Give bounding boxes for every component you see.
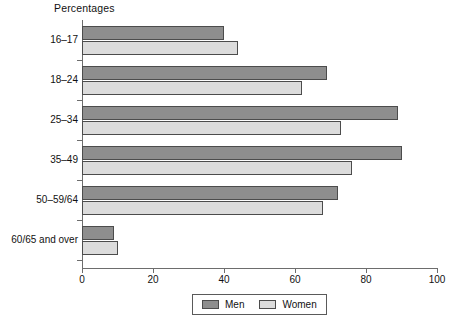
legend-label-women: Women xyxy=(282,299,316,310)
category-label: 25–34 xyxy=(2,114,78,125)
bar-men xyxy=(82,66,327,80)
category-label: 18–24 xyxy=(2,74,78,85)
bar-women xyxy=(82,241,118,255)
bar-group xyxy=(82,26,437,56)
category-label: 35–49 xyxy=(2,154,78,165)
bar-group xyxy=(82,106,437,136)
x-axis-tick xyxy=(153,268,154,273)
y-axis-tick xyxy=(77,260,82,261)
chart-title: Percentages xyxy=(54,2,115,14)
x-axis-tick xyxy=(224,268,225,273)
x-axis-label: 40 xyxy=(218,274,229,285)
bar-women xyxy=(82,201,323,215)
y-axis-tick xyxy=(77,140,82,141)
x-axis-tick xyxy=(82,268,83,273)
legend-swatch-men xyxy=(202,300,219,309)
bar-men xyxy=(82,106,398,120)
x-axis-tick xyxy=(295,268,296,273)
bar-men xyxy=(82,186,338,200)
x-axis-tick xyxy=(437,268,438,273)
category-label: 50–59/64 xyxy=(2,194,78,205)
x-axis-tick xyxy=(366,268,367,273)
bar-women xyxy=(82,121,341,135)
x-axis-label: 80 xyxy=(360,274,371,285)
y-axis-tick xyxy=(77,60,82,61)
legend-label-men: Men xyxy=(225,299,244,310)
x-axis-label: 60 xyxy=(289,274,300,285)
bar-men xyxy=(82,146,402,160)
y-axis-tick xyxy=(77,180,82,181)
y-axis-tick xyxy=(77,220,82,221)
x-axis-line xyxy=(82,268,438,269)
bar-women xyxy=(82,41,238,55)
y-axis-tick xyxy=(77,100,82,101)
x-axis-label: 0 xyxy=(79,274,85,285)
bar-group xyxy=(82,146,437,176)
bar-chart: Percentages 16–1718–2425–3435–4950–59/64… xyxy=(0,0,453,319)
bar-group xyxy=(82,186,437,216)
category-label: 60/65 and over xyxy=(2,234,78,245)
bar-men xyxy=(82,26,224,40)
legend-item-women: Women xyxy=(259,299,316,310)
x-axis-label: 100 xyxy=(429,274,446,285)
plot-area: 16–1718–2425–3435–4950–59/6460/65 and ov… xyxy=(82,20,437,268)
bar-women xyxy=(82,81,302,95)
bar-men xyxy=(82,226,114,240)
x-axis-label: 20 xyxy=(147,274,158,285)
category-label: 16–17 xyxy=(2,34,78,45)
legend-item-men: Men xyxy=(202,299,244,310)
legend-swatch-women xyxy=(259,300,276,309)
chart-legend: Men Women xyxy=(192,294,327,315)
bar-group xyxy=(82,66,437,96)
bar-group xyxy=(82,226,437,256)
bar-women xyxy=(82,161,352,175)
